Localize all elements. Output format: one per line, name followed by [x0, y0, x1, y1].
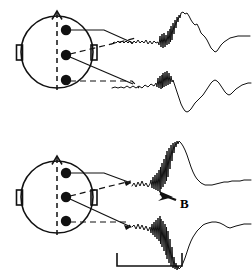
b-pointer-arrow: [158, 191, 176, 201]
trace-lower: [132, 216, 251, 270]
link-central-solid: [70, 199, 131, 227]
top-panel-canvas: [0, 0, 252, 139]
eeg-figure: B: [0, 0, 252, 277]
trace-upper: [112, 12, 250, 52]
trace-upper-path: [112, 12, 250, 52]
electrode-posterior: [61, 216, 71, 226]
trace-lower-path: [132, 216, 251, 270]
annotation-label-b: B: [180, 197, 189, 210]
trace-lower: [112, 71, 251, 112]
bottom-panel-canvas: [0, 139, 252, 277]
head-diagram-top: [17, 11, 140, 92]
electrode-central: [61, 50, 71, 60]
head-diagram-bottom: [17, 156, 132, 237]
trace-upper: [132, 141, 251, 192]
electrode-posterior: [61, 75, 71, 85]
electrode-central: [61, 192, 71, 202]
trace-lower-path: [112, 71, 251, 112]
bottom-panel: [0, 139, 252, 277]
link-anterior-solid: [69, 173, 131, 183]
link-central-dashed: [70, 181, 131, 196]
top-panel: [0, 0, 252, 139]
trace-upper-path: [132, 141, 251, 192]
